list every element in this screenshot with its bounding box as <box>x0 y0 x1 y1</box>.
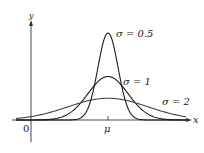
sigma-1-label: σ = 1 <box>123 77 151 87</box>
curve-sigma-2 <box>16 98 186 118</box>
chart-canvas <box>0 0 204 153</box>
x-axis-arrow-icon <box>186 118 192 122</box>
x-axis-label: x <box>193 115 199 125</box>
origin-label: 0 <box>23 124 29 134</box>
mu-label: μ <box>104 124 111 134</box>
sigma-2-label: σ = 2 <box>162 97 190 107</box>
sigma-0-5-label: σ = 0.5 <box>116 29 153 39</box>
y-axis-label: y <box>29 12 34 20</box>
y-axis-arrow-icon <box>29 20 33 26</box>
curve-sigma-0-5 <box>16 33 186 120</box>
